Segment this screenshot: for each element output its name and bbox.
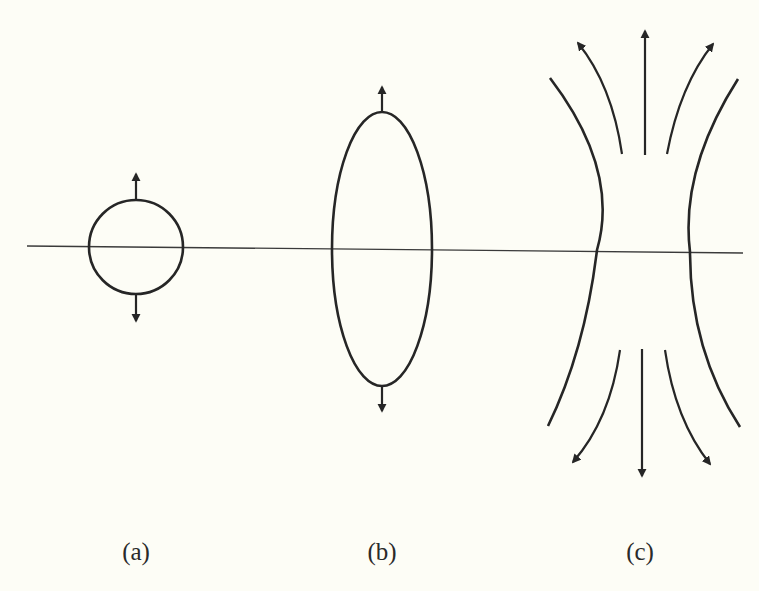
- field-arrow-up-icon: [578, 43, 622, 154]
- field-diagram: [0, 0, 759, 591]
- panel-c-label: (c): [626, 538, 654, 566]
- panel-a-label: (a): [122, 538, 150, 566]
- horizontal-axis-line: [27, 246, 743, 253]
- panel-b-label: (b): [367, 538, 396, 566]
- field-arrow-down-icon: [573, 350, 620, 462]
- field-arrow-down-icon: [665, 350, 710, 464]
- panel-c-field-lines-group: [548, 31, 740, 476]
